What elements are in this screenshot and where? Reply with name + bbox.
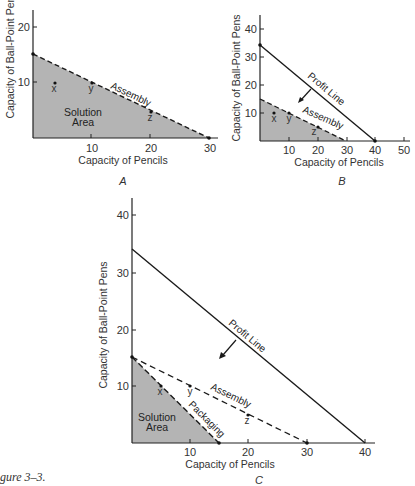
x-axis-title-b: Capacity of Pencils (294, 156, 383, 168)
point-label: y (188, 386, 193, 397)
xtick-label: 10 (283, 144, 295, 156)
ytick-label: 10 (18, 76, 30, 88)
point-z-b (316, 125, 319, 128)
xtick-label: 40 (369, 144, 381, 156)
chart-a: 20 10 10 20 30 Assembly x y z Solution A… (4, 0, 218, 187)
figure-3-3: 20 10 10 20 30 Assembly x y z Solution A… (0, 0, 415, 486)
intercept-dot (258, 43, 262, 47)
point-label: z (245, 415, 250, 426)
chart-b: 40 30 20 10 10 20 30 40 50 Profit Line A… (230, 14, 410, 187)
point-label: x (272, 113, 277, 124)
point-label: z (312, 126, 317, 137)
figure-caption: gure 3–3. (0, 470, 46, 485)
y-axis-title-a: Capacity of Ball-Point Pens (4, 0, 16, 119)
y-axis-title-c: Capacity of Ball-Point Pens (97, 261, 109, 388)
x-axis-title-c: Capacity of Pencils (185, 458, 274, 470)
intercept-dot (305, 441, 309, 445)
intercept-dot (217, 441, 221, 445)
panel-label-b: B (338, 175, 345, 187)
solution-area-label: Area (72, 116, 94, 128)
x-axis-title-a: Capacity of Pencils (78, 154, 167, 166)
point-label: x (52, 83, 57, 94)
ytick-label: 20 (245, 79, 257, 91)
ytick-label: 10 (245, 107, 257, 119)
xtick-label: 20 (145, 142, 157, 154)
intercept-dot (130, 355, 134, 359)
ytick-label: 20 (18, 21, 30, 33)
point-label: z (148, 112, 153, 123)
ytick-label: 10 (117, 380, 129, 392)
ytick-label: 40 (117, 209, 129, 221)
ytick-label: 20 (117, 324, 129, 336)
xtick-label: 50 (398, 144, 410, 156)
chart-c: 40 30 20 10 10 20 30 40 Profit Line Asse… (97, 198, 375, 486)
solution-area-label: Area (146, 421, 168, 433)
ytick-label: 30 (117, 267, 129, 279)
xtick-label: 30 (301, 446, 313, 458)
xtick-label: 30 (204, 142, 216, 154)
panel-label-c: C (255, 474, 263, 486)
point-label: x (158, 386, 163, 397)
point-label: y (89, 83, 94, 94)
profit-arrow-icon (301, 89, 311, 100)
panel-label-a: A (118, 175, 126, 187)
xtick-label: 30 (341, 144, 353, 156)
ytick-label: 30 (245, 51, 257, 63)
xtick-label: 20 (242, 446, 254, 458)
profit-arrow-icon (223, 340, 236, 355)
intercept-dot (207, 136, 211, 140)
xtick-label: 10 (184, 446, 196, 458)
y-axis-title-b: Capacity of Ball-Point Pens (230, 14, 242, 141)
xtick-label: 10 (86, 142, 98, 154)
xtick-label: 20 (312, 144, 324, 156)
intercept-dot (373, 139, 377, 143)
profit-line-label-c: Profit Line (227, 317, 269, 355)
intercept-dot (31, 52, 35, 56)
point-label: y (287, 113, 292, 124)
ytick-label: 40 (245, 23, 257, 35)
xtick-label: 40 (359, 446, 371, 458)
